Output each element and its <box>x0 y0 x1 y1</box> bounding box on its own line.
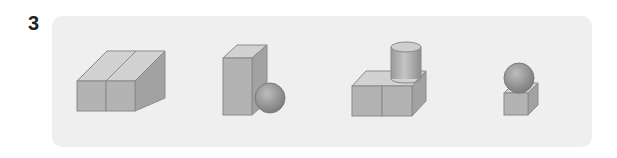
figure-cubes-cylinder <box>352 42 426 116</box>
figures-canvas <box>52 16 592 147</box>
question-number: 3 <box>28 12 39 35</box>
figure-cube-sphere <box>504 63 538 115</box>
figures-panel <box>52 16 592 147</box>
figure-two-cuboids <box>77 51 165 111</box>
figure-tall-prism-sphere <box>223 45 285 115</box>
